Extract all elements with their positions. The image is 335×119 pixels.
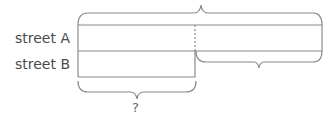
unknown-question-mark: ? bbox=[132, 101, 139, 114]
street-b-bar bbox=[78, 51, 195, 77]
top-brace bbox=[78, 5, 322, 25]
tape-diagram: street A street B ? bbox=[0, 0, 335, 119]
street-b-brace bbox=[78, 81, 196, 99]
street-a-bar bbox=[78, 25, 322, 51]
street-b-label: street B bbox=[15, 57, 70, 71]
street-a-label: street A bbox=[15, 31, 70, 45]
difference-brace bbox=[196, 51, 322, 68]
